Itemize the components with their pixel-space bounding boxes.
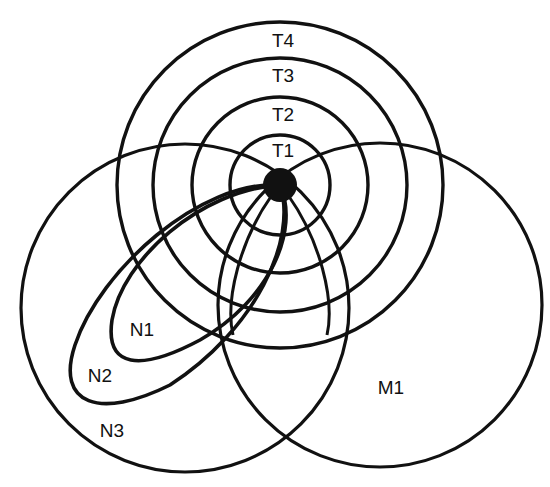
ray-right-lens <box>288 195 329 335</box>
label-t1: T1 <box>272 140 294 161</box>
center-dot <box>263 168 297 202</box>
label-m1: M1 <box>378 377 404 398</box>
label-n3: N3 <box>100 420 124 441</box>
label-t4: T4 <box>272 30 295 51</box>
center-dot-group <box>263 168 297 202</box>
circle-n3 <box>21 144 349 472</box>
label-n2: N2 <box>88 365 112 386</box>
label-t2: T2 <box>272 104 294 125</box>
label-t3: T3 <box>272 65 294 86</box>
labels-group: N3M1T1T2T3T4N1N2 <box>88 30 404 441</box>
venn-diagram: N3M1T1T2T3T4N1N2 <box>0 0 550 487</box>
label-n1: N1 <box>130 319 154 340</box>
